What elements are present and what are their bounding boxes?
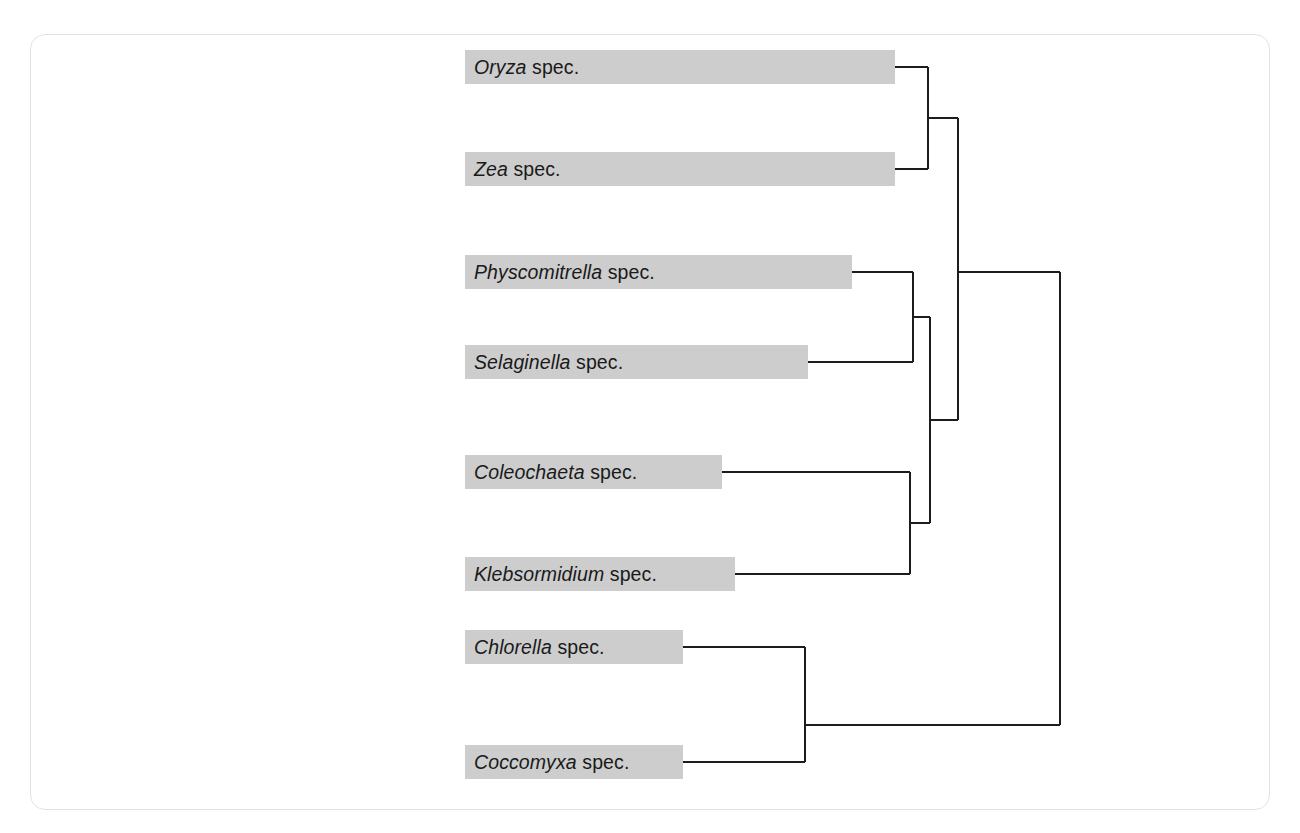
branch-lines — [0, 0, 1300, 833]
phylogenetic-tree: Oryza spec. Zea spec. Physcomitrella spe… — [0, 0, 1300, 833]
